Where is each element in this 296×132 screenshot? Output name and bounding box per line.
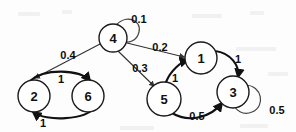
edge-label-5-to-1: 1 <box>172 72 178 84</box>
node-5-label: 5 <box>160 92 167 107</box>
node-3-label: 3 <box>229 85 236 100</box>
state-transition-diagram: 4 2 6 1 5 3 0.1 0.4 0.2 0.3 1 1 1 1 <box>0 0 296 132</box>
graph-canvas: 4 2 6 1 5 3 0.1 0.4 0.2 0.3 1 1 1 1 <box>0 0 296 132</box>
node-6[interactable]: 6 <box>72 80 104 112</box>
edge-label-4-to-4: 0.1 <box>131 13 146 25</box>
edge-label-6-to-2: 1 <box>40 117 46 129</box>
edge-label-4-to-1: 0.2 <box>152 41 167 53</box>
node-1[interactable]: 1 <box>185 42 217 74</box>
edge-label-3-to-3: 0.5 <box>269 104 284 116</box>
edge-label-2-to-6: 1 <box>58 73 64 85</box>
edge-label-4-to-2: 0.4 <box>60 49 76 61</box>
node-1-label: 1 <box>197 51 204 66</box>
node-3[interactable]: 3 <box>217 76 249 108</box>
node-2[interactable]: 2 <box>18 80 50 112</box>
edge-label-4-to-5: 0.3 <box>132 62 147 74</box>
edge-label-1-to-3: 1 <box>235 53 241 65</box>
node-4[interactable]: 4 <box>99 24 127 52</box>
node-5[interactable]: 5 <box>147 82 181 116</box>
node-4-label: 4 <box>109 31 117 46</box>
node-2-label: 2 <box>30 89 37 104</box>
edge-label-5-to-3: 0.5 <box>189 110 204 122</box>
node-6-label: 6 <box>84 89 91 104</box>
